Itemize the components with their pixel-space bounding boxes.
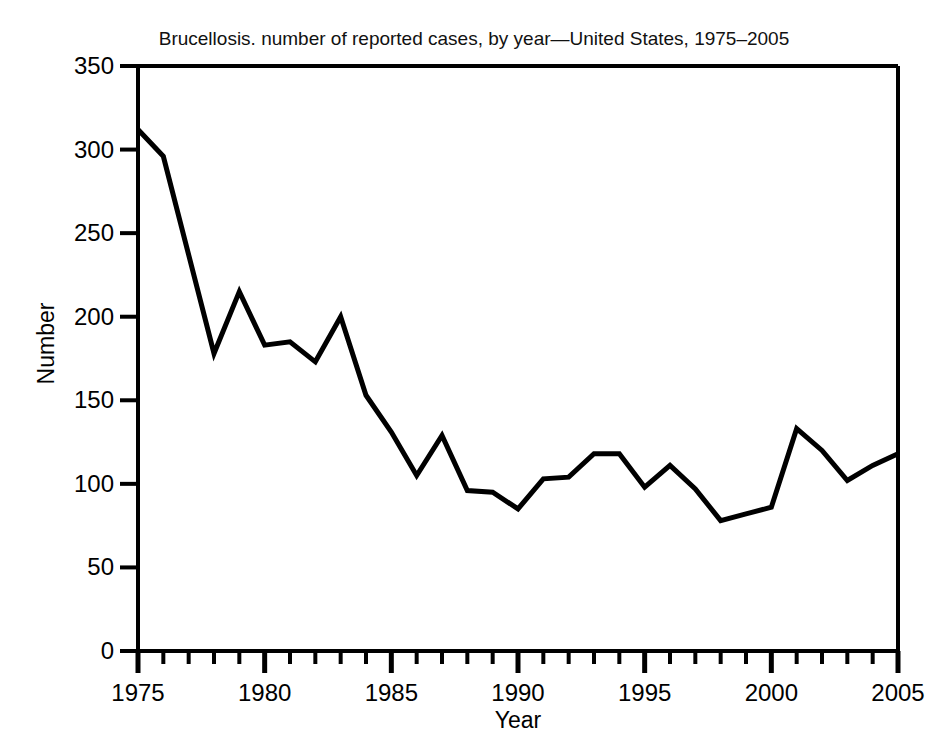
y-axis-label: Number [33,284,60,404]
x-tick-label: 1975 [88,681,188,705]
chart-figure: Brucellosis. number of reported cases, b… [0,0,948,754]
axis-spines [138,66,898,651]
x-tick-label: 2005 [848,681,948,705]
y-tick-label: 50 [30,555,114,579]
data-series-layer [138,130,898,521]
x-tick-label: 1990 [468,681,568,705]
x-axis-label: Year [138,707,898,734]
plot-area [0,0,948,754]
y-tick-label: 350 [30,54,114,78]
x-tick-label: 1980 [215,681,315,705]
x-tick-label: 1985 [341,681,441,705]
x-tick-label: 1995 [595,681,695,705]
y-tick-label: 250 [30,221,114,245]
x-axis-ticks [138,651,898,673]
x-tick-label: 2000 [721,681,821,705]
y-axis-ticks [120,66,138,651]
y-tick-label: 300 [30,138,114,162]
y-tick-label: 0 [30,639,114,663]
y-tick-label: 100 [30,472,114,496]
